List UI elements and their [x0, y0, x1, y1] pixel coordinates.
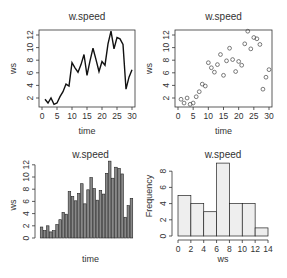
data-point [231, 58, 235, 62]
data-point [222, 73, 226, 77]
bar [115, 167, 118, 238]
y-axis-label: ws [144, 63, 154, 75]
y-tick-label: 2 [161, 95, 171, 100]
x-axis-label: ws [217, 254, 229, 264]
histogram-bin [255, 228, 268, 236]
bar [84, 204, 87, 238]
y-tick-label: 0 [158, 233, 168, 238]
data-point [185, 96, 189, 100]
data-point [243, 42, 247, 46]
x-tick-label: 2 [188, 244, 193, 254]
x-tick-label: 0 [176, 244, 181, 254]
x-tick-label: 14 [263, 244, 273, 254]
data-point [249, 47, 253, 51]
bar [65, 214, 68, 238]
x-tick-label: 5 [191, 111, 196, 121]
bar [87, 190, 90, 238]
data-point [206, 61, 210, 65]
plot-box [39, 30, 135, 107]
x-axis-label: time [82, 254, 99, 264]
histogram-bin [204, 212, 217, 236]
data-point [234, 70, 238, 74]
x-tick-label: 15 [219, 111, 229, 121]
bar [68, 192, 71, 238]
data-point [228, 46, 232, 50]
bar [74, 201, 77, 238]
bar [127, 206, 130, 238]
bar [62, 212, 65, 238]
y-tick-label: 8 [21, 187, 31, 192]
y-tick-label: 8 [25, 58, 35, 63]
histogram-bin [242, 204, 255, 236]
figure: w.speedtimews24681012051015202530w.speed… [0, 0, 287, 278]
x-tick-label: 0 [176, 111, 181, 121]
bar [130, 198, 133, 238]
y-tick-label: 4 [158, 201, 168, 206]
bar [118, 168, 121, 238]
x-tick-label: 5 [55, 111, 60, 121]
y-tick-label: 2 [25, 95, 35, 100]
y-tick-label: 6 [158, 185, 168, 190]
x-tick-label: 0 [40, 111, 45, 121]
data-point [237, 60, 241, 64]
data-point [225, 59, 229, 63]
y-tick-label: 12 [25, 30, 35, 40]
bar [124, 217, 127, 238]
data-point [194, 95, 198, 99]
data-point [203, 84, 207, 88]
x-tick-label: 15 [82, 111, 92, 121]
y-tick-label: 10 [161, 43, 171, 53]
data-point [267, 68, 271, 72]
bar [77, 193, 80, 238]
bar [99, 190, 102, 238]
bar [46, 226, 49, 238]
y-tick-label: 2 [158, 217, 168, 222]
y-tick-label: 4 [25, 83, 35, 88]
y-tick-label: 8 [158, 169, 168, 174]
x-tick-label: 30 [127, 111, 137, 121]
bar [90, 178, 93, 238]
data-line [45, 31, 132, 104]
x-tick-label: 4 [201, 244, 206, 254]
y-tick-label: 4 [21, 211, 31, 216]
bar [121, 174, 124, 238]
y-tick-label: 8 [161, 58, 171, 63]
x-tick-label: 25 [249, 111, 259, 121]
x-tick-label: 25 [112, 111, 122, 121]
bar [59, 220, 62, 238]
bar [105, 173, 108, 238]
x-axis-label: time [78, 126, 95, 136]
histogram-bin [229, 204, 242, 236]
y-tick-label: 0 [21, 235, 31, 240]
x-tick-label: 10 [238, 244, 248, 254]
x-tick-label: 10 [204, 111, 214, 121]
bar [108, 161, 111, 238]
bar [71, 197, 74, 238]
x-axis-label: time [215, 126, 232, 136]
chart-title: w.speed [71, 149, 109, 160]
chart-canvas: w.speedtimews24681012051015202530w.speed… [0, 0, 287, 278]
y-tick-label: 10 [21, 172, 31, 182]
bar [102, 194, 105, 238]
scatter-chart-panel: w.speedtimews24681012051015202530 [144, 11, 274, 136]
bar [93, 189, 96, 238]
bar [43, 231, 46, 238]
y-tick-label: 4 [161, 83, 171, 88]
histogram-bin [178, 196, 191, 237]
histogram-bin [217, 163, 230, 236]
y-axis-label: Frequency [144, 174, 154, 217]
x-tick-label: 6 [214, 244, 219, 254]
x-tick-label: 10 [67, 111, 77, 121]
y-tick-label: 6 [25, 70, 35, 75]
y-axis-label: ws [8, 199, 18, 211]
data-point [216, 63, 220, 67]
bar [81, 184, 84, 238]
data-point [209, 66, 213, 70]
data-point [264, 75, 268, 79]
data-point [179, 97, 183, 101]
bar [56, 225, 59, 238]
data-point [213, 70, 217, 74]
data-point [219, 53, 223, 57]
data-point [197, 90, 201, 94]
data-point [261, 87, 265, 91]
